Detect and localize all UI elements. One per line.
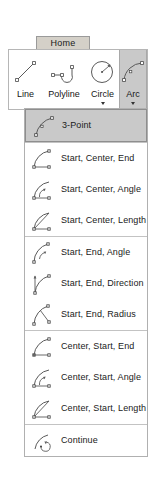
- menu-item-start-end-angle[interactable]: Start, End, Angle: [25, 237, 147, 268]
- menu-item-center-start-angle[interactable]: Center, Start, Angle: [25, 362, 147, 393]
- ribbon-button-arc-label: Arc: [126, 90, 140, 99]
- ribbon-button-circle[interactable]: Circle: [86, 50, 119, 109]
- tab-home[interactable]: Home: [36, 36, 90, 50]
- arc-dropdown-menu: 3-Point Start, Center, End: [24, 108, 148, 457]
- circle-icon: [86, 53, 119, 89]
- menu-item-label: Center, Start, Length: [61, 404, 146, 413]
- ribbon-button-polyline[interactable]: Polyline: [42, 50, 86, 109]
- menu-item-label: Start, Center, Angle: [61, 185, 141, 194]
- line-icon: [9, 53, 42, 89]
- menu-item-start-center-length[interactable]: Start, Center, Length: [25, 205, 147, 236]
- chevron-down-icon[interactable]: [131, 102, 135, 105]
- ribbon-button-line-label: Line: [17, 90, 34, 99]
- ribbon-button-circle-label: Circle: [91, 90, 114, 99]
- menu-item-start-end-radius[interactable]: Start, End, Radius: [25, 299, 147, 330]
- arc-center-start-angle-icon: [27, 362, 61, 393]
- ribbon-tab-strip: Home: [0, 36, 152, 49]
- menu-item-center-start-length[interactable]: Center, Start, Length: [25, 393, 147, 424]
- menu-item-start-end-direction[interactable]: Start, End, Direction: [25, 268, 147, 299]
- menu-item-label: Center, Start, Angle: [61, 373, 141, 382]
- menu-group: Continue: [25, 425, 147, 456]
- arc-icon: [120, 53, 146, 89]
- arc-start-end-radius-icon: [27, 299, 61, 330]
- menu-item-label: Start, End, Angle: [61, 248, 130, 257]
- menu-item-center-start-end[interactable]: Center, Start, End: [25, 331, 147, 362]
- menu-item-label: Start, End, Direction: [61, 279, 144, 288]
- menu-item-label: Start, Center, End: [61, 154, 134, 163]
- menu-group: 3-Point: [25, 109, 147, 143]
- menu-item-continue[interactable]: Continue: [25, 425, 147, 456]
- ribbon-button-arc[interactable]: Arc: [119, 50, 147, 109]
- menu-item-label: Start, Center, Length: [61, 216, 146, 225]
- menu-item-start-center-end[interactable]: Start, Center, End: [25, 143, 147, 174]
- menu-item-label: 3-Point: [62, 121, 91, 130]
- menu-group: Center, Start, End Center, Start, Angle: [25, 331, 147, 425]
- menu-item-label: Center, Start, End: [61, 342, 134, 351]
- menu-item-label: Continue: [61, 436, 98, 445]
- menu-item-start-center-angle[interactable]: Start, Center, Angle: [25, 174, 147, 205]
- arc-start-center-length-icon: [27, 205, 61, 236]
- arc-center-start-length-icon: [27, 393, 61, 424]
- ribbon-panel-draw: Line Polyline: [8, 49, 148, 110]
- arc-continue-icon: [27, 425, 61, 456]
- arc-start-center-angle-icon: [27, 174, 61, 205]
- arc-3-point-icon: [28, 110, 62, 141]
- menu-group: Start, End, Angle Start, End, Direction: [25, 237, 147, 331]
- ribbon-button-polyline-label: Polyline: [48, 90, 80, 99]
- ribbon: Home Line: [0, 0, 152, 112]
- arc-start-end-direction-icon: [27, 268, 61, 299]
- arc-center-start-end-icon: [27, 331, 61, 362]
- arc-start-center-end-icon: [27, 143, 61, 174]
- chevron-down-icon[interactable]: [101, 102, 105, 105]
- arc-start-end-angle-icon: [27, 237, 61, 268]
- menu-item-3-point[interactable]: 3-Point: [25, 109, 147, 142]
- menu-group: Start, Center, End Start, Center, Angle: [25, 143, 147, 237]
- menu-item-label: Start, End, Radius: [61, 310, 136, 319]
- tab-home-label: Home: [51, 39, 76, 48]
- ribbon-button-line[interactable]: Line: [9, 50, 42, 109]
- polyline-icon: [42, 53, 86, 89]
